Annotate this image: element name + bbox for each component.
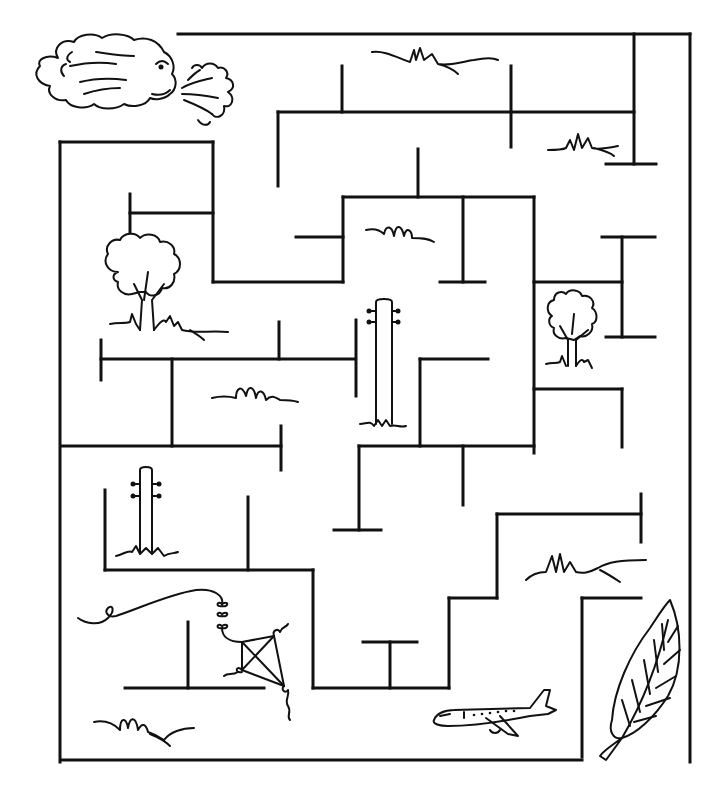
grass-icon [548,134,618,156]
grass-icon [212,388,298,402]
grass-icon [526,554,646,582]
grass-icon [366,227,434,242]
tree-left-icon [106,234,228,340]
airplane-icon [434,690,556,736]
grass-icon [94,719,194,746]
wind-cloud-icon [36,34,233,124]
kite-icon [78,590,290,720]
maze-canvas[interactable] [0,0,724,796]
utility-pole-center-icon [360,299,406,427]
grass-icon [372,48,498,74]
maze-puzzle [0,0,724,796]
utility-pole-left-icon [116,467,178,556]
tree-right-icon [546,290,597,368]
leaf-icon [600,600,680,760]
